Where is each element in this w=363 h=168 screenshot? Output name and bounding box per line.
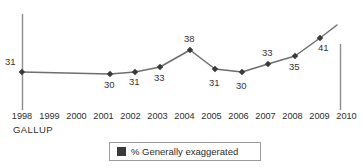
series-markers [19,35,324,78]
data-label-2002: 31 [129,76,140,87]
data-label-2006: 30 [236,80,247,91]
x-tick-2002: 2002 [117,111,144,121]
x-tick-2005: 2005 [198,111,225,121]
x-tick-2009: 2009 [306,111,333,121]
chart-legend: % Generally exaggerated [109,142,261,161]
x-tick-2003: 2003 [144,111,171,121]
x-tick-2000: 2000 [63,111,90,121]
data-label-2007: 33 [262,47,273,58]
x-tick-2010: 2010 [333,111,360,121]
data-label-2004: 38 [184,33,195,44]
x-tick-2008: 2008 [279,111,306,121]
legend-label-generally-exaggerated: % Generally exaggerated [131,146,238,157]
data-label-2001: 30 [104,79,115,90]
x-tick-2006: 2006 [225,111,252,121]
data-label-2009: 41 [318,42,329,53]
x-tick-1998: 1998 [8,111,36,121]
data-label-2003: 33 [154,72,165,83]
x-tick-2001: 2001 [90,111,117,121]
data-label-2005: 31 [209,77,220,88]
legend-swatch-icon [117,147,126,156]
x-tick-2004: 2004 [171,111,198,121]
data-label-2008: 35 [289,61,300,72]
line-chart: 31 30 31 33 38 31 30 33 35 41 1998 1999 … [0,0,363,168]
data-label-1998: 31 [5,56,16,67]
source-attribution: GALLUP [13,124,53,135]
x-tick-1999: 1999 [36,111,63,121]
x-axis-tick-labels: 1998 1999 2000 2001 2002 2003 2004 2005 … [0,111,363,121]
x-tick-2007: 2007 [252,111,279,121]
